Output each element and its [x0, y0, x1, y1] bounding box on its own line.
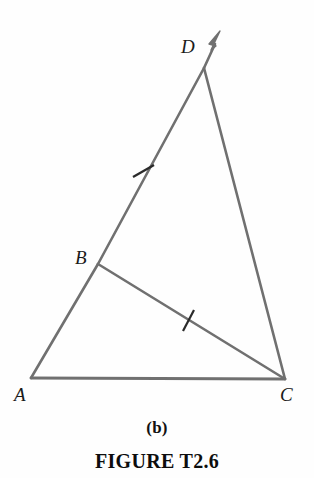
figure-caption: FIGURE T2.6	[0, 450, 314, 473]
vertex-label-d: D	[181, 37, 195, 56]
ray-AD-arrowhead	[209, 31, 220, 50]
tick-on-BD	[133, 165, 154, 177]
figure-container: A B C D (b) FIGURE T2.6	[0, 0, 314, 478]
segment-BC	[98, 264, 285, 379]
geometry-diagram	[0, 0, 314, 478]
segment-AC	[31, 378, 285, 379]
vertex-label-b: B	[75, 248, 87, 267]
panel-label: (b)	[0, 418, 314, 438]
vertex-label-c: C	[280, 385, 293, 404]
vertex-label-a: A	[14, 385, 26, 404]
segment-AB	[31, 264, 98, 378]
segment-DC	[204, 68, 285, 379]
